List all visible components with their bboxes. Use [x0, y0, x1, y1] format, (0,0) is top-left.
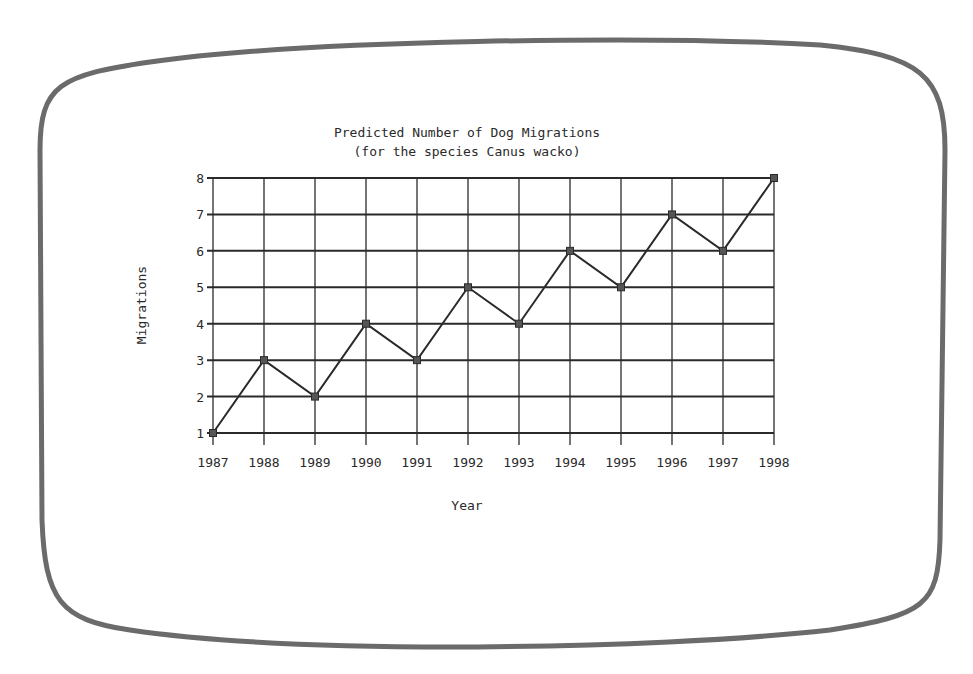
y-tick-label: 6: [196, 244, 204, 259]
x-tick-label: 1989: [299, 455, 330, 470]
data-point-marker: [516, 320, 523, 327]
data-point-marker: [261, 357, 268, 364]
chart-title: Predicted Number of Dog Migrations: [334, 125, 600, 140]
x-tick-label: 1994: [554, 455, 585, 470]
data-point-marker: [414, 357, 421, 364]
line-chart: Predicted Number of Dog Migrations (for …: [0, 0, 973, 674]
data-point-marker: [720, 247, 727, 254]
x-tick-label: 1987: [197, 455, 228, 470]
chart-subtitle: (for the species Canus wacko): [354, 144, 581, 159]
y-tick-label: 3: [196, 353, 204, 368]
x-tick-label: 1992: [452, 455, 483, 470]
y-tick-label: 1: [196, 426, 204, 441]
grid-lines: [207, 178, 774, 445]
x-tick-label: 1993: [503, 455, 534, 470]
x-tick-label: 1991: [401, 455, 432, 470]
x-tick-label: 1988: [248, 455, 279, 470]
crt-screen: Predicted Number of Dog Migrations (for …: [0, 0, 973, 674]
data-point-marker: [465, 284, 472, 291]
y-axis-label: Migrations: [134, 266, 149, 344]
x-tick-label: 1995: [605, 455, 636, 470]
data-point-marker: [312, 393, 319, 400]
x-tick-label: 1998: [758, 455, 789, 470]
x-axis-label: Year: [451, 498, 482, 513]
data-point-marker: [567, 247, 574, 254]
x-axis-ticks: 1987198819891990199119921993199419951996…: [197, 455, 789, 470]
data-point-marker: [618, 284, 625, 291]
data-point-marker: [669, 211, 676, 218]
x-tick-label: 1996: [656, 455, 687, 470]
data-point-marker: [210, 430, 217, 437]
y-tick-label: 5: [196, 280, 204, 295]
data-point-marker: [771, 175, 778, 182]
y-tick-label: 7: [196, 207, 204, 222]
series-line: [213, 178, 774, 433]
y-tick-label: 4: [196, 317, 204, 332]
x-tick-label: 1990: [350, 455, 381, 470]
x-tick-label: 1997: [707, 455, 738, 470]
data-point-marker: [363, 320, 370, 327]
y-tick-label: 2: [196, 390, 204, 405]
y-axis-ticks: 12345678: [196, 171, 204, 441]
y-tick-label: 8: [196, 171, 204, 186]
